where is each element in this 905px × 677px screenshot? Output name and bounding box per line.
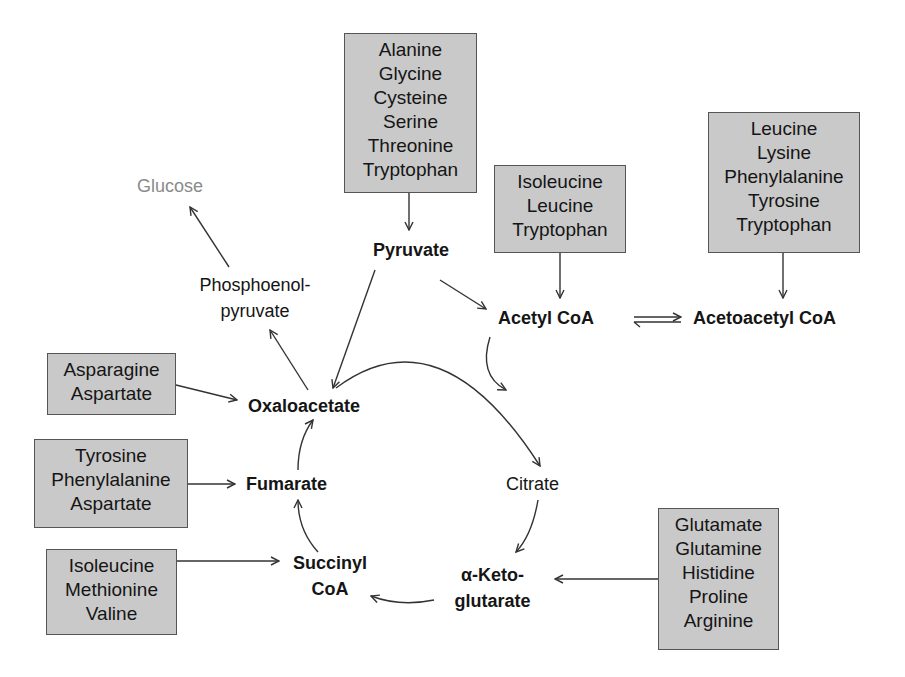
amino-acid: Proline [659,585,778,609]
metabolite-oxaloacetate: Oxaloacetate [248,396,360,417]
metabolite-phosphoenolpyruvate: Phosphoenol- pyruvate [185,272,325,324]
arrow-asparagine-to-oxaloacetate [176,385,237,400]
amino-acid: Lysine [709,141,859,165]
amino-acid: Glutamine [659,537,778,561]
amino-acid: Tyrosine [35,444,187,468]
akg-line-2: glutarate [440,588,545,614]
amino-acid: Methionine [47,578,176,602]
amino-acid: Valine [47,602,176,626]
succinyl-line-2: CoA [285,576,375,602]
amino-acid: Phenylalanine [35,468,187,492]
metabolite-citrate: Citrate [506,474,559,495]
arrow-acetyl-coa-into-cycle [486,337,506,390]
metabolite-acetoacetyl-coa: Acetoacetyl CoA [693,308,836,329]
amino-acid: Aspartate [35,492,187,516]
box-acetyl-coa-sources: Isoleucine Leucine Tryptophan [494,165,626,253]
amino-acid: Isoleucine [495,170,625,194]
amino-acid: Arginine [659,609,778,633]
arrow-succinyl-to-fumarate [298,500,318,552]
arrow-oxaloacetate-to-citrate [336,362,540,466]
amino-acid: Histidine [659,561,778,585]
amino-acid: Threonine [345,134,476,158]
arrow-acetoacetyl-to-acetyl [634,322,681,327]
amino-acid: Asparagine [48,358,175,382]
amino-acid: Tryptophan [345,158,476,182]
amino-acid: Leucine [709,117,859,141]
amino-acid: Glutamate [659,513,778,537]
arrow-pyruvate-to-acetyl-coa [440,280,486,309]
box-succinyl-coa-sources: Isoleucine Methionine Valine [46,549,177,635]
box-fumarate-sources: Tyrosine Phenylalanine Aspartate [34,439,188,528]
pep-line-1: Phosphoenol- [185,272,325,298]
amino-acid: Serine [345,110,476,134]
amino-acid: Phenylalanine [709,165,859,189]
metabolite-succinyl-coa: Succinyl CoA [285,550,375,602]
arrow-akg-to-succinyl-coa [371,596,434,603]
arrow-fumarate-to-oxaloacetate [298,420,313,470]
akg-line-1: α-Keto- [440,562,545,588]
amino-acid: Leucine [495,194,625,218]
metabolite-acetyl-coa: Acetyl CoA [498,308,594,329]
amino-acid: Glycine [345,62,476,86]
amino-acid: Aspartate [48,382,175,406]
succinyl-line-1: Succinyl [285,550,375,576]
pep-line-2: pyruvate [185,298,325,324]
metabolite-fumarate: Fumarate [246,474,327,495]
box-akg-sources: Glutamate Glutamine Histidine Proline Ar… [658,508,779,650]
arrow-oxaloacetate-to-pep [270,330,308,390]
metabolite-pyruvate: Pyruvate [373,240,449,261]
amino-acid: Isoleucine [47,554,176,578]
amino-acid: Cysteine [345,86,476,110]
box-oxaloacetate-sources: Asparagine Aspartate [47,353,176,415]
metabolite-glucose: Glucose [137,176,203,197]
box-acetoacetyl-coa-sources: Leucine Lysine Phenylalanine Tyrosine Tr… [708,112,860,253]
metabolite-alpha-ketoglutarate: α-Keto- glutarate [440,562,545,614]
amino-acid: Tryptophan [709,213,859,237]
amino-acid: Alanine [345,38,476,62]
amino-acid: Tyrosine [709,189,859,213]
arrow-pep-to-glucose [190,207,229,267]
arrow-citrate-to-akg [516,500,538,552]
arrow-pyruvate-to-oxaloacetate [333,270,375,388]
box-pyruvate-sources: Alanine Glycine Cysteine Serine Threonin… [344,33,477,193]
amino-acid: Tryptophan [495,218,625,242]
